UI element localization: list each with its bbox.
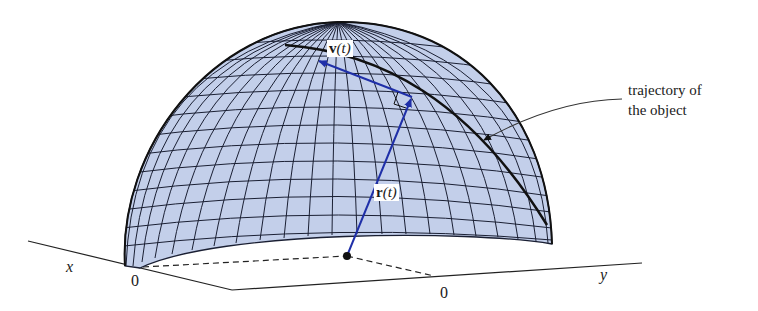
position-label: r(t) <box>374 184 399 201</box>
x-origin-label: 0 <box>131 272 139 290</box>
x-dashed-projection <box>143 256 347 267</box>
annotation-line-1: trajectory of <box>628 80 702 100</box>
trajectory-annotation: trajectory of the object <box>628 80 702 120</box>
x-axis-label: x <box>66 258 73 276</box>
y-dashed-projection <box>347 256 434 276</box>
velocity-label: v(t) <box>327 40 353 57</box>
y-axis-line <box>232 263 642 290</box>
annotation-line-2: the object <box>628 100 702 120</box>
hemisphere-diagram: v(t) r(t) trajectory of the object x y 0… <box>0 0 758 311</box>
axes <box>28 241 642 290</box>
diagram-canvas <box>0 0 758 311</box>
origin-point <box>343 252 351 260</box>
y-origin-label: 0 <box>440 284 448 302</box>
y-axis-label: y <box>600 266 607 284</box>
